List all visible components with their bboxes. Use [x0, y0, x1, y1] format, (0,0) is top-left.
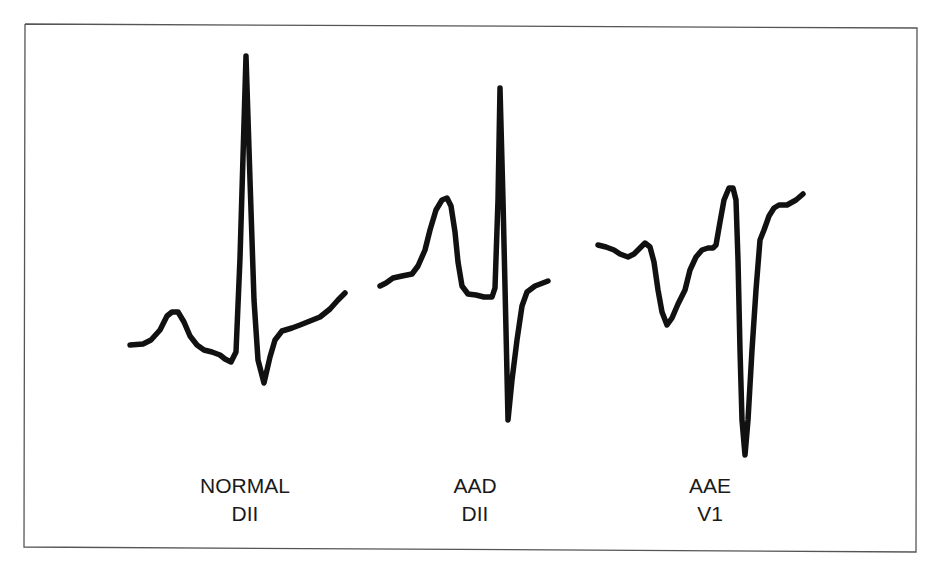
ecg-trace-aad-dii [380, 88, 548, 420]
label-normal-lead: DII [175, 500, 315, 528]
label-aad-dii: AAD DII [425, 472, 525, 528]
label-aae-title: AAE [660, 472, 760, 500]
ecg-trace-normal-dii [130, 56, 345, 383]
label-aad-lead: DII [425, 500, 525, 528]
label-normal-dii: NORMAL DII [175, 472, 315, 528]
ecg-trace-aae-v1 [598, 188, 803, 455]
label-aad-title: AAD [425, 472, 525, 500]
label-normal-title: NORMAL [175, 472, 315, 500]
label-aae-v1: AAE V1 [660, 472, 760, 528]
label-aae-lead: V1 [660, 500, 760, 528]
